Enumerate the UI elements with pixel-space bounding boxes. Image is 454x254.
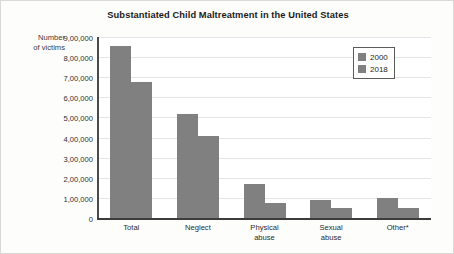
legend-item-2000[interactable]: 2000 <box>358 51 388 63</box>
x-axis-category-label-line-2: abuse <box>298 233 365 243</box>
bar[interactable] <box>265 203 286 219</box>
x-axis-category-label: Physicalabuse <box>231 223 298 242</box>
bar-group <box>244 38 286 219</box>
legend-swatch-icon <box>358 53 366 61</box>
y-axis-tick-label: 4,00,000 <box>47 134 93 143</box>
y-axis-tick-label: 9,00,000 <box>47 34 93 43</box>
bar[interactable] <box>198 136 219 219</box>
legend-label: 2000 <box>370 53 388 62</box>
legend-item-2018[interactable]: 2018 <box>358 63 388 75</box>
x-axis-category-label: Neglect <box>165 223 232 233</box>
x-axis-category-label-line-1: Neglect <box>165 223 232 233</box>
x-axis-line <box>97 218 431 220</box>
bar-group <box>177 38 219 219</box>
y-axis-tick-label: 8,00,000 <box>47 54 93 63</box>
y-axis-tick-label: 6,00,000 <box>47 94 93 103</box>
legend-label: 2018 <box>370 65 388 74</box>
x-axis-category-label-line-2: abuse <box>231 233 298 243</box>
y-axis-tick-label: 2,00,000 <box>47 174 93 183</box>
bar-group <box>310 38 352 219</box>
chart-title: Substantiated Child Maltreatment in the … <box>1 10 454 20</box>
bar-group <box>110 38 152 219</box>
x-axis-category-label: Total <box>98 223 165 233</box>
chart-figure: Substantiated Child Maltreatment in the … <box>0 0 454 254</box>
x-axis-category-label-line-1: Sexual <box>298 223 365 233</box>
legend-swatch-icon <box>358 65 366 73</box>
y-axis-line <box>97 37 99 220</box>
y-axis-tick-label: 3,00,000 <box>47 154 93 163</box>
x-axis-category-label-line-1: Other* <box>364 223 431 233</box>
y-axis-tick-label: 1,00,000 <box>47 194 93 203</box>
x-axis-category-label: Sexualabuse <box>298 223 365 242</box>
bar[interactable] <box>110 46 131 219</box>
bar[interactable] <box>244 184 265 219</box>
chart-legend: 20002018 <box>353 47 395 79</box>
bar[interactable] <box>177 114 198 219</box>
y-axis-tick-label: 7,00,000 <box>47 74 93 83</box>
y-axis-tick-label: 5,00,000 <box>47 114 93 123</box>
y-axis-tick-label: 0 <box>47 215 93 224</box>
x-axis-category-label-line-1: Total <box>98 223 165 233</box>
bar[interactable] <box>131 82 152 219</box>
y-axis-tick-labels: 01,00,0002,00,0003,00,0004,00,0005,00,00… <box>45 38 93 219</box>
bar[interactable] <box>310 200 331 219</box>
x-axis-category-label-line-1: Physical <box>231 223 298 233</box>
x-axis-category-label: Other* <box>364 223 431 233</box>
bar[interactable] <box>377 198 398 219</box>
